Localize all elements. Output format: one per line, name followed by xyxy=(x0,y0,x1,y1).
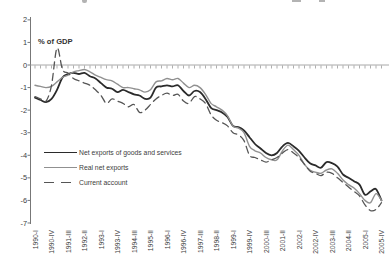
x-tick-label: 1997-III xyxy=(197,230,204,253)
x-tick-label: 1998-II xyxy=(213,230,220,251)
y-tick-label: -6 xyxy=(20,196,27,205)
legend-line-sample-real-net-exports xyxy=(44,167,77,168)
x-tick-label: 1999-IV xyxy=(246,230,253,254)
line-chart: 1990-I1990-IV1991-III1992-II1993-I1993-I… xyxy=(0,0,392,275)
chart-figure: 1990-I1990-IV1991-III1992-II1993-I1993-I… xyxy=(0,0,392,275)
x-tick-label: 2005-I xyxy=(362,230,369,249)
x-tick-label: 2002-I xyxy=(296,230,303,249)
x-tick-label: 2002-IV xyxy=(312,230,319,254)
x-tick-label: 1996-IV xyxy=(180,230,187,254)
legend-label-net-exports: Net exports of goods and services xyxy=(79,149,182,156)
cropped-caption-fragment xyxy=(319,0,325,2)
legend-label-current-account: Current account xyxy=(79,179,127,186)
y-tick-label: -4 xyxy=(20,151,27,160)
x-tick-label: 1991-III xyxy=(65,230,72,253)
axes xyxy=(28,17,390,224)
y-tick-label: 1 xyxy=(23,38,27,47)
y-tick-label: -7 xyxy=(20,219,27,228)
legend-item-current-account: Current account xyxy=(44,177,182,188)
x-tick-label: 1995-II xyxy=(147,230,154,251)
x-tick-label: 1990-I xyxy=(32,230,39,249)
cropped-caption-fragment xyxy=(292,0,301,2)
y-tick-label: -1 xyxy=(20,83,27,92)
x-tick-label: 2003-III xyxy=(329,230,336,253)
y-axis-labels: 210-1-2-3-4-5-6-7 xyxy=(20,15,27,227)
x-tick-label: 1994-III xyxy=(131,230,138,253)
x-tick-label: 1999-I xyxy=(230,230,237,249)
x-tick-label: 1996-I xyxy=(164,230,171,249)
y-tick-label: 0 xyxy=(23,61,27,70)
legend-line-sample-net-exports xyxy=(44,152,77,154)
x-tick-label: 1993-I xyxy=(98,230,105,249)
y-tick-label: -5 xyxy=(20,173,27,182)
y-tick-label: -2 xyxy=(20,106,27,115)
legend-item-real-net-exports: Real net exports xyxy=(44,162,182,173)
x-tick-label: 2005-IV xyxy=(378,230,385,254)
x-axis-labels: 1990-I1990-IV1991-III1992-II1993-I1993-I… xyxy=(32,230,386,254)
x-tick-label: 2000-III xyxy=(263,230,270,253)
unit-label: % of GDP xyxy=(38,37,73,46)
x-tick-label: 1993-IV xyxy=(114,230,121,254)
legend: Net exports of goods and services Real n… xyxy=(44,147,182,188)
legend-item-net-exports: Net exports of goods and services xyxy=(44,147,182,158)
x-tick-label: 1992-II xyxy=(81,230,88,251)
y-tick-label: 2 xyxy=(23,15,27,24)
y-tick-label: -3 xyxy=(20,128,27,137)
x-tick-label: 1990-IV xyxy=(48,230,55,254)
legend-line-sample-current-account xyxy=(44,182,77,183)
x-tick-label: 2004-II xyxy=(345,230,352,251)
cropped-caption-fragment xyxy=(82,0,87,3)
x-tick-label: 2001-II xyxy=(279,230,286,251)
legend-label-real-net-exports: Real net exports xyxy=(79,164,129,171)
